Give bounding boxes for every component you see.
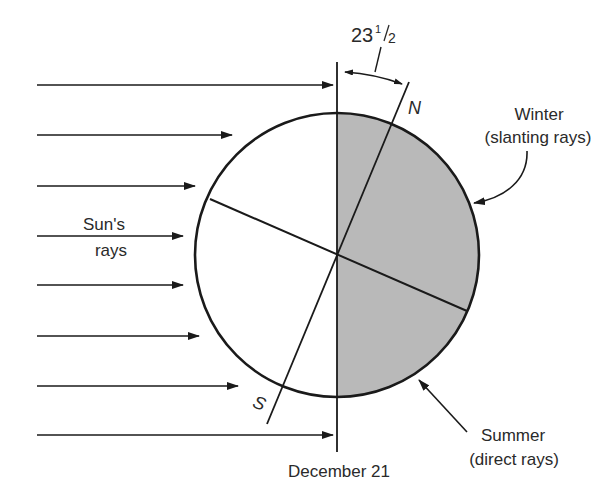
tilt-leader-line xyxy=(375,47,381,72)
earth-tilt-diagram: 23 1 2 N S Sun's rays Winter (slanting r… xyxy=(0,0,600,502)
tilt-angle-label: 23 xyxy=(351,24,373,46)
winter-label-line1: Winter xyxy=(514,105,563,124)
sun-rays-label-line1: Sun's xyxy=(83,215,125,234)
tilt-angle-arc xyxy=(345,72,402,84)
winter-pointer-arrow xyxy=(474,151,527,203)
summer-label-line2: (direct rays) xyxy=(469,450,559,469)
tilt-fraction-numerator: 1 xyxy=(375,23,381,35)
earth xyxy=(195,100,497,410)
summer-pointer-arrow xyxy=(419,380,467,432)
summer-label-line1: Summer xyxy=(481,426,546,445)
north-label: N xyxy=(408,98,422,118)
night-side-shade xyxy=(337,100,497,410)
date-label: December 21 xyxy=(288,462,390,481)
tilt-fraction-denominator: 2 xyxy=(388,30,396,46)
winter-label-line2: (slanting rays) xyxy=(485,128,592,147)
south-label: S xyxy=(250,392,269,415)
sun-rays-label-line2: rays xyxy=(95,241,127,260)
